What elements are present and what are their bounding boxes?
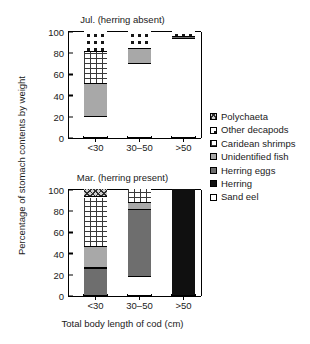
chart-panel-mar: Mar. (herring present) 100806040200<3030… (40, 172, 205, 330)
y-tick-mark (69, 274, 73, 275)
segment-divider (128, 63, 151, 64)
y-tick-mark (69, 295, 73, 296)
segment-divider (84, 196, 107, 197)
y-axis-label: Percentage of stomach contents by weight (16, 41, 27, 291)
legend-swatch-unidfish-icon (210, 153, 217, 160)
legend-label: Polychaeta (221, 112, 268, 122)
x-tick-mark (139, 138, 140, 142)
x-tick-mark (95, 138, 96, 142)
y-tick-jul-100: 100 (48, 27, 69, 38)
legend-label: Unidentified fish (221, 152, 289, 162)
plot-area-jul: 100806040200<3030–50>50 (68, 31, 201, 139)
segment-divider (84, 83, 107, 84)
legend-item-caridean[interactable]: Caridean shrimps (210, 137, 310, 150)
y-tick-mar-100: 100 (48, 185, 69, 196)
y-tick-mar-80: 80 (53, 206, 69, 217)
y-tick-mark (69, 232, 73, 233)
bar-segment-herringeggs (128, 210, 151, 277)
segment-divider (84, 267, 107, 268)
bar-segment-herring (172, 189, 195, 295)
bar-segment-sandeel (172, 39, 195, 137)
bar-segment-sandeel (128, 277, 151, 295)
y-tick-mark (69, 31, 73, 32)
legend-label: Sand eel (221, 192, 259, 202)
bar-segment-herringeggs (84, 269, 107, 296)
chart-panel-jul: Jul. (herring absent) 100806040200<3030–… (40, 14, 205, 154)
bar-segment-decapods (84, 31, 107, 52)
x-axis-label: Total body length of cod (cm) (40, 318, 205, 329)
segment-divider (172, 36, 195, 37)
y-tick-jul-60: 60 (53, 69, 69, 80)
y-tick-mark (69, 253, 73, 254)
legend-item-herringeggs[interactable]: Herring eggs (210, 164, 310, 177)
bar-segment-unidfish (84, 247, 107, 268)
x-tick-label-jul-1: 30–50 (126, 142, 152, 153)
figure-root: Percentage of stomach contents by weight… (0, 0, 310, 344)
y-tick-mark (69, 137, 73, 138)
segment-divider (128, 202, 151, 203)
x-tick-mark (183, 138, 184, 142)
y-tick-mar-0: 0 (59, 291, 69, 302)
legend-swatch-sandeel-icon (210, 194, 217, 201)
segment-divider (172, 38, 195, 39)
segment-divider (84, 246, 107, 247)
segment-divider (128, 48, 151, 49)
legend-label: Herring eggs (221, 166, 275, 176)
legend-label: Caridean shrimps (221, 139, 295, 149)
segment-divider (84, 116, 107, 117)
legend-swatch-herring-icon (210, 180, 217, 187)
bar-segment-unidfish (128, 49, 151, 64)
legend-swatch-polychaeta-icon (210, 113, 217, 120)
x-tick-label-mar-2: >50 (175, 300, 191, 311)
bar-segment-caridean (84, 198, 107, 248)
y-tick-mark (69, 74, 73, 75)
plot-area-mar: 100806040200<3030–50>50 (68, 189, 201, 297)
legend-item-polychaeta[interactable]: Polychaeta (210, 110, 310, 123)
segment-divider (84, 51, 107, 52)
x-tick-mark (183, 296, 184, 300)
segment-divider (128, 209, 151, 210)
x-tick-mark (139, 296, 140, 300)
y-tick-jul-80: 80 (53, 48, 69, 59)
x-tick-label-mar-0: <30 (87, 300, 103, 311)
x-tick-label-mar-1: 30–50 (126, 300, 152, 311)
legend-item-sandeel[interactable]: Sand eel (210, 190, 310, 203)
bar-segment-caridean (84, 52, 107, 84)
y-tick-jul-20: 20 (53, 111, 69, 122)
bar-segment-decapods (128, 31, 151, 49)
legend-swatch-herringeggs-icon (210, 167, 217, 174)
legend-swatch-caridean-icon (210, 140, 217, 147)
y-tick-mark (69, 189, 73, 190)
y-tick-jul-40: 40 (53, 90, 69, 101)
legend-item-herring[interactable]: Herring (210, 177, 310, 190)
legend-item-unidfish[interactable]: Unidentified fish (210, 150, 310, 163)
legend-label: Other decapods (221, 125, 289, 135)
bar-segment-sandeel (128, 64, 151, 137)
x-tick-label-jul-0: <30 (87, 142, 103, 153)
chart-title-mar: Mar. (herring present) (40, 172, 205, 183)
y-tick-mark (69, 116, 73, 117)
segment-divider (128, 276, 151, 277)
chart-title-jul: Jul. (herring absent) (40, 14, 205, 25)
legend-swatch-decapods-icon (210, 127, 217, 134)
y-tick-jul-0: 0 (59, 133, 69, 144)
x-tick-label-jul-2: >50 (175, 142, 191, 153)
y-tick-mar-20: 20 (53, 269, 69, 280)
x-tick-mark (95, 296, 96, 300)
bar-segment-unidfish (84, 84, 107, 117)
legend: PolychaetaOther decapodsCaridean shrimps… (210, 110, 310, 204)
y-tick-mar-40: 40 (53, 248, 69, 259)
legend-label: Herring (221, 179, 252, 189)
legend-item-decapods[interactable]: Other decapods (210, 123, 310, 136)
y-tick-mar-60: 60 (53, 227, 69, 238)
y-tick-mark (69, 95, 73, 96)
y-tick-mark (69, 53, 73, 54)
bar-segment-sandeel (84, 117, 107, 137)
y-tick-mark (69, 211, 73, 212)
